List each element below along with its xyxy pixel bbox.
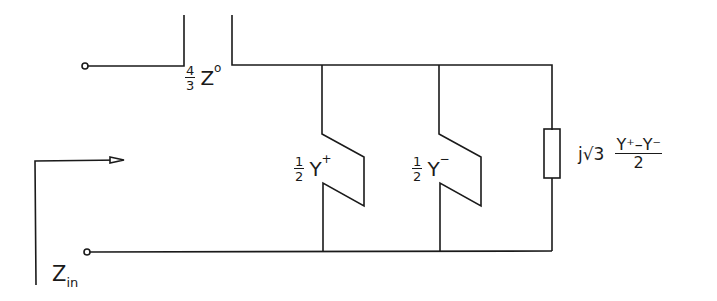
admittance-y-minus-label: 1 2 Y− xyxy=(412,155,450,183)
superscript: o xyxy=(214,61,221,75)
zin-arrow-line xyxy=(35,160,122,285)
subscript: in xyxy=(66,275,78,290)
input-terminal-bottom xyxy=(84,249,90,255)
symbol: Y xyxy=(427,157,439,181)
resistor-label: j√3 Y⁺–Y⁻ 2 xyxy=(578,137,662,171)
arrow-head-icon xyxy=(110,157,124,163)
prefix: j√3 xyxy=(578,144,604,164)
numerator: Y⁺–Y⁻ xyxy=(615,137,661,154)
symbol: Z xyxy=(52,262,66,286)
coef-num: 1 xyxy=(412,155,422,169)
symbol: Z xyxy=(200,66,214,90)
denominator: 2 xyxy=(634,154,644,171)
symbol: Y xyxy=(309,157,321,181)
coef-den: 3 xyxy=(186,78,194,92)
input-terminal-top xyxy=(82,63,88,69)
wire-top-right xyxy=(232,15,552,130)
coef-num: 1 xyxy=(294,155,304,169)
superscript: + xyxy=(322,152,332,166)
coef-num: 4 xyxy=(185,64,195,78)
coef-den: 2 xyxy=(295,169,303,183)
wire-bottom xyxy=(90,251,552,252)
superscript: − xyxy=(440,152,450,166)
coef-den: 2 xyxy=(413,169,421,183)
resistor-element xyxy=(544,129,560,178)
wire-top-left xyxy=(88,15,184,66)
admittance-y-plus-label: 1 2 Y+ xyxy=(294,155,332,183)
input-impedance-label: Zin xyxy=(52,264,78,285)
series-impedance-label: 4 3 Zo xyxy=(185,64,221,92)
